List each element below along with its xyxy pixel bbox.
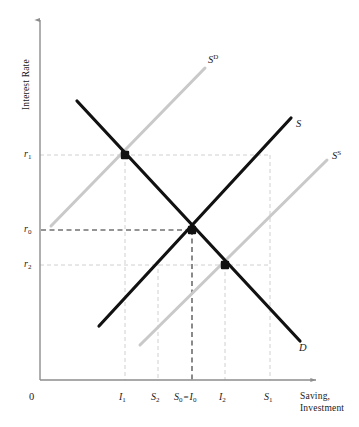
- x-axis-title-line2: Investment: [300, 402, 344, 414]
- curve-label-SS: SS: [332, 151, 341, 162]
- point-r2-I2: [221, 261, 229, 269]
- data-points: [121, 151, 229, 269]
- y-tick-label-r0: r0: [24, 224, 31, 234]
- x-tick-label-S1: S1: [264, 392, 273, 402]
- curve-label-D: D: [299, 343, 307, 354]
- saving-investment-chart: Interest Rate r1 r0 r2 0 I1 S2 S0=I0 I2 …: [0, 0, 359, 427]
- x-tick-label-S2: S2: [151, 392, 160, 402]
- x-tick-label-I2: I2: [219, 392, 226, 402]
- curve-label-S: S: [296, 119, 301, 130]
- x-axis-title-line1: Saving,: [300, 390, 344, 402]
- curve-label-SD: SD: [208, 55, 218, 66]
- y-tick-label-r1: r1: [24, 149, 31, 159]
- x-tick-label-S0-eq-I0: S0=I0: [174, 392, 196, 402]
- curve-SD: [51, 68, 205, 226]
- chart-canvas: [0, 0, 359, 427]
- y-axis-title: Interest Rate: [22, 59, 32, 110]
- origin-label: 0: [29, 392, 34, 403]
- y-tick-label-r2: r2: [24, 259, 31, 269]
- point-equilibrium-r0: [188, 226, 196, 234]
- gray-curves: [51, 68, 327, 345]
- x-axis-title: Saving, Investment: [300, 390, 344, 415]
- chart-axes: [40, 20, 316, 380]
- point-r1-I1: [121, 151, 129, 159]
- x-tick-label-I1: I1: [119, 392, 126, 402]
